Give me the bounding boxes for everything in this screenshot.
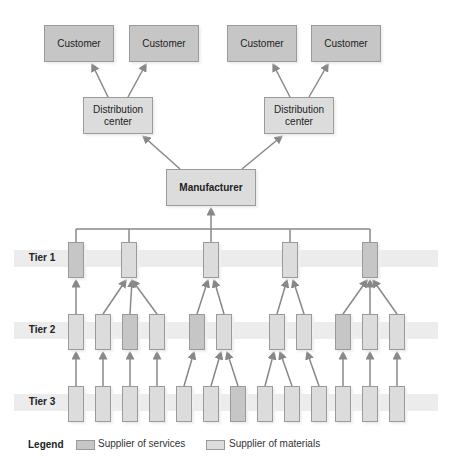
material-swatch [206, 440, 225, 450]
customer-box: Customer [129, 25, 199, 62]
tier-1-supplier-service [68, 242, 84, 278]
customer-box: Customer [311, 25, 381, 62]
tier-3-supplier-material [203, 386, 219, 422]
service-legend-label: Supplier of services [98, 438, 185, 449]
customer-box: Customer [44, 25, 114, 62]
tier-2-supplier-material [68, 314, 84, 350]
tier-3-supplier-material [95, 386, 111, 422]
tier-2-supplier-service [122, 314, 138, 350]
tier-2-supplier-material [296, 314, 312, 350]
tier-3-supplier-material [284, 386, 300, 422]
tier-2-supplier-material [149, 314, 165, 350]
distribution-center-box: Distribution center [264, 97, 334, 134]
tier-2-supplier-material [269, 314, 285, 350]
tier-1-supplier-service [362, 242, 378, 278]
tier-2-supplier-service [335, 314, 351, 350]
tier-3-supplier-service [230, 386, 246, 422]
tier-3-supplier-material [149, 386, 165, 422]
tier-3-supplier-material [257, 386, 273, 422]
tier-1-supplier-material [203, 242, 219, 278]
tier-3-supplier-material [68, 386, 84, 422]
tier-2-supplier-material [389, 314, 405, 350]
tier-3-supplier-material [311, 386, 327, 422]
legend-title: Legend [28, 439, 64, 450]
tier-3-supplier-material [362, 386, 378, 422]
tier-3-supplier-material [176, 386, 192, 422]
tier-2-supplier-service [189, 314, 205, 350]
tier-3-supplier-material [335, 386, 351, 422]
material-legend-label: Supplier of materials [229, 438, 320, 449]
tier-2-supplier-material [216, 314, 232, 350]
service-swatch [76, 440, 95, 450]
manufacturer-box: Manufacturer [166, 169, 256, 206]
tier-2-supplier-material [362, 314, 378, 350]
distribution-center-box: Distribution center [83, 97, 153, 134]
tier-3-supplier-material [389, 386, 405, 422]
tier-1-supplier-material [282, 242, 298, 278]
tier-2-supplier-material [95, 314, 111, 350]
customer-box: Customer [227, 25, 297, 62]
tier-3-supplier-material [122, 386, 138, 422]
tier-1-supplier-material [121, 242, 137, 278]
